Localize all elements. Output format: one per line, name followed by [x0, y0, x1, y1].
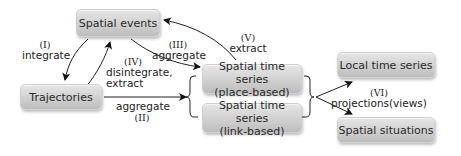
brace-right — [302, 76, 314, 117]
edge-label-integrate: (I) integrate — [22, 39, 68, 61]
edge-label-aggregate-ii: aggregate (II) — [116, 101, 168, 123]
node-label: Spatial situations — [339, 124, 434, 137]
node-label: Local time series — [340, 59, 433, 72]
node-label: Spatial events — [79, 17, 157, 30]
node-label: Trajectories — [29, 91, 92, 104]
edge-text: aggregate — [116, 101, 168, 112]
edge-text: extract — [228, 43, 268, 54]
node-local-time-series: Local time series — [337, 52, 435, 78]
node-trajectories: Trajectories — [20, 84, 102, 110]
brace-left — [186, 76, 198, 117]
node-label-line2: (link-based) — [219, 125, 284, 138]
node-spatial-time-series-link: Spatial time series (link-based) — [202, 103, 302, 133]
edge-label-extract-v: (V) extract — [228, 32, 268, 54]
node-spatial-events: Spatial events — [76, 9, 160, 37]
node-spatial-situations: Spatial situations — [337, 117, 435, 143]
edge-text-line2: extract — [106, 78, 166, 89]
edge-text: integrate — [22, 50, 68, 61]
edge-label-disintegrate-extract: (IV) disintegrate, extract — [106, 56, 166, 89]
edge-number: (II) — [116, 112, 168, 123]
node-spatial-time-series-place: Spatial time series (place-based) — [202, 64, 302, 94]
node-label-line2: (place-based) — [214, 86, 289, 99]
edge-label-projections: (VI) projections(views) — [329, 87, 429, 109]
node-label-line1: Spatial time series — [203, 99, 301, 125]
edge-text: projections(views) — [329, 98, 429, 109]
node-label-line1: Spatial time series — [203, 60, 301, 86]
